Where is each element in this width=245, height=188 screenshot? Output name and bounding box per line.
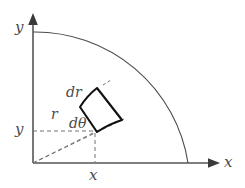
- quarter-circle-arc: [33, 32, 188, 163]
- figure-canvas: [0, 0, 245, 188]
- dr-label: dr: [66, 85, 82, 99]
- polar-coordinates-figure: y x y x r dr dθ: [0, 0, 245, 188]
- y-coordinate-label: y: [15, 122, 23, 137]
- x-coordinate-label: x: [89, 168, 97, 183]
- radius-label: r: [51, 107, 58, 121]
- y-axis-label: y: [15, 20, 23, 35]
- x-axis-arrowhead: [208, 158, 220, 168]
- y-axis-arrowhead: [28, 13, 38, 25]
- dtheta-label: dθ: [69, 116, 86, 130]
- dr-leader-dash: [103, 80, 111, 85]
- x-axis-label: x: [224, 155, 232, 170]
